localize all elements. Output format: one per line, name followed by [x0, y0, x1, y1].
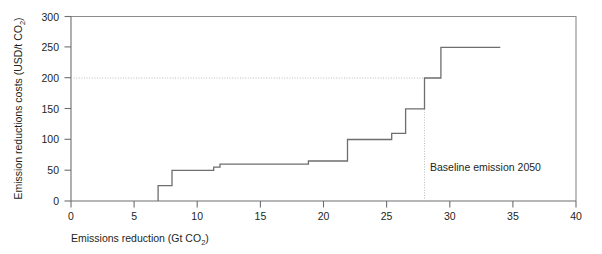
x-tick-label-20: 20 [318, 210, 330, 222]
svg-text:Emission reductions costs (USD: Emission reductions costs (USD/t CO2) [12, 17, 27, 199]
chart-svg: 300 250 200 150 100 50 0 0 5 10 15 20 [0, 0, 602, 254]
x-axis-tick-labels: 0 5 10 15 20 25 30 35 40 [68, 210, 582, 222]
x-tick-label-30: 30 [444, 210, 456, 222]
y-axis-title: Emission reductions costs (USD/t CO2) [12, 17, 27, 199]
x-tick-label-5: 5 [131, 210, 137, 222]
x-tick-label-15: 15 [255, 210, 267, 222]
x-tick-label-0: 0 [68, 210, 74, 222]
x-tick-label-40: 40 [570, 210, 582, 222]
frame-top-right-border [71, 17, 576, 202]
y-tick-label-50: 50 [47, 164, 59, 176]
y-axis-ticks [65, 17, 72, 202]
x-axis-ticks [71, 201, 576, 208]
x-axis-title-post: ) [205, 232, 209, 244]
y-tick-label-200: 200 [41, 72, 59, 84]
y-tick-label-250: 250 [41, 41, 59, 53]
y-tick-label-150: 150 [41, 103, 59, 115]
emissions-abatement-cost-chart: 300 250 200 150 100 50 0 0 5 10 15 20 [0, 0, 602, 254]
abatement-cost-step-curve [158, 47, 500, 201]
baseline-emission-annotation: Baseline emission 2050 [430, 161, 541, 173]
x-axis-title-pre: Emissions reduction (Gt CO [71, 232, 201, 244]
y-axis-title-post: ) [12, 17, 24, 21]
y-axis-title-pre: Emission reductions costs (USD/t CO [12, 25, 24, 199]
x-tick-label-10: 10 [191, 210, 203, 222]
plot-frame [71, 17, 576, 202]
x-tick-label-35: 35 [507, 210, 519, 222]
y-axis-tick-labels: 300 250 200 150 100 50 0 [41, 11, 59, 208]
y-tick-label-300: 300 [41, 11, 59, 23]
x-axis-title: Emissions reduction (Gt CO2) [71, 232, 209, 247]
x-tick-label-25: 25 [381, 210, 393, 222]
y-tick-label-0: 0 [53, 195, 59, 207]
y-tick-label-100: 100 [41, 133, 59, 145]
svg-text:Emissions reduction (Gt CO2): Emissions reduction (Gt CO2) [71, 232, 209, 247]
